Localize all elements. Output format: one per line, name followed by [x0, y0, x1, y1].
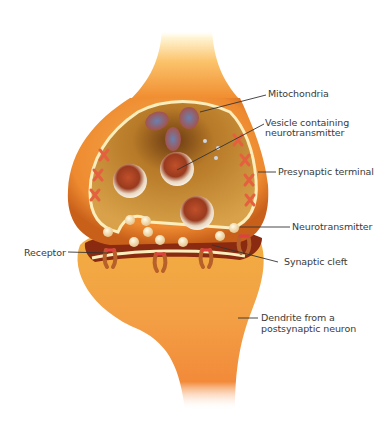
label-vesicle-line2: neurotransmitter [265, 127, 344, 138]
label-mitochondria: Mitochondria [268, 88, 329, 99]
label-dendrite-line1: Dendrite from a [261, 312, 335, 323]
label-neurotransmitter: Neurotransmitter [292, 221, 372, 232]
label-receptor: Receptor [24, 247, 66, 258]
axon [130, 30, 240, 100]
label-dendrite-line2: postsynaptic neuron [261, 323, 356, 334]
synapse-illustration [0, 0, 389, 422]
label-presynaptic-terminal: Presynaptic terminal [278, 166, 374, 177]
label-synaptic-cleft: Synaptic cleft [284, 256, 347, 267]
